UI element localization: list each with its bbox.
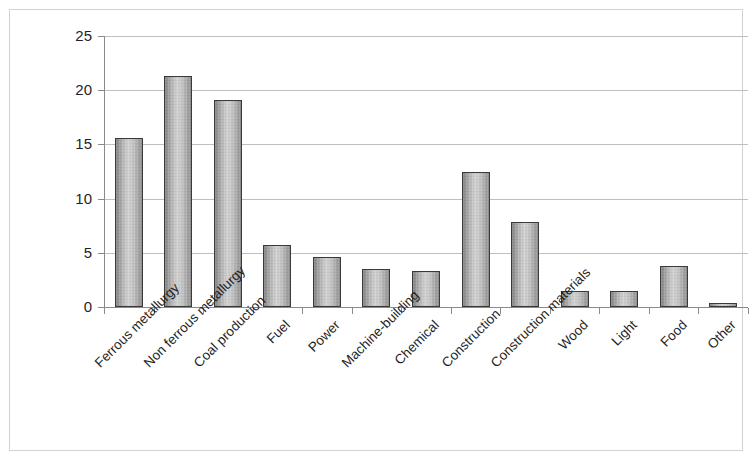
- y-tick-mark-25: [98, 36, 104, 37]
- y-tick-label-20: 20: [52, 82, 92, 97]
- y-tick-label-25: 25: [52, 28, 92, 43]
- x-axis-label: Construction materials: [489, 318, 541, 370]
- bar[interactable]: [660, 266, 688, 307]
- x-tick-mark: [352, 308, 353, 314]
- chart-figure: 0510152025 Ferrous metallurgyNon ferrous…: [0, 0, 753, 460]
- x-tick-mark: [302, 308, 303, 314]
- x-tick-mark: [748, 308, 749, 314]
- gridline-5: [104, 253, 748, 254]
- x-axis-label: Machine-building: [340, 318, 392, 370]
- bar[interactable]: [362, 269, 390, 307]
- y-tick-mark-20: [98, 90, 104, 91]
- gridline-25: [104, 36, 748, 37]
- y-tick-label-5: 5: [52, 245, 92, 260]
- bar[interactable]: [313, 257, 341, 307]
- bar[interactable]: [610, 291, 638, 307]
- x-axis-label: Coal production: [191, 318, 243, 370]
- x-tick-mark: [451, 308, 452, 314]
- x-axis-label: Other: [687, 318, 739, 370]
- y-tick-mark-5: [98, 253, 104, 254]
- x-axis-label: Power: [290, 318, 342, 370]
- plot-area: [104, 36, 748, 307]
- y-axis-line: [104, 36, 105, 308]
- gridline-15: [104, 144, 748, 145]
- x-tick-mark: [104, 308, 105, 314]
- x-axis-label: Light: [588, 318, 640, 370]
- bar[interactable]: [164, 76, 192, 307]
- bar[interactable]: [263, 245, 291, 307]
- x-axis-label: Food: [637, 318, 689, 370]
- x-axis-label: Wood: [538, 318, 590, 370]
- x-axis-label: Non ferrous metallurgy: [142, 318, 194, 370]
- bar[interactable]: [511, 222, 539, 307]
- x-tick-mark: [500, 308, 501, 314]
- gridline-20: [104, 90, 748, 91]
- gridline-10: [104, 199, 748, 200]
- y-tick-label-15: 15: [52, 136, 92, 151]
- bar[interactable]: [115, 138, 143, 307]
- y-tick-mark-15: [98, 144, 104, 145]
- y-tick-mark-10: [98, 199, 104, 200]
- x-axis-label: Fuel: [241, 318, 293, 370]
- x-axis-label: Ferrous metallurgy: [92, 318, 144, 370]
- x-axis-label: Chemical: [390, 318, 442, 370]
- y-tick-label-0: 0: [52, 299, 92, 314]
- x-tick-mark: [698, 308, 699, 314]
- y-axis-tick-labels: 0510152025: [48, 0, 92, 460]
- x-tick-mark: [599, 308, 600, 314]
- x-tick-mark: [649, 308, 650, 314]
- y-tick-label-10: 10: [52, 191, 92, 206]
- bar[interactable]: [462, 172, 490, 308]
- x-axis-label: Construction: [439, 318, 491, 370]
